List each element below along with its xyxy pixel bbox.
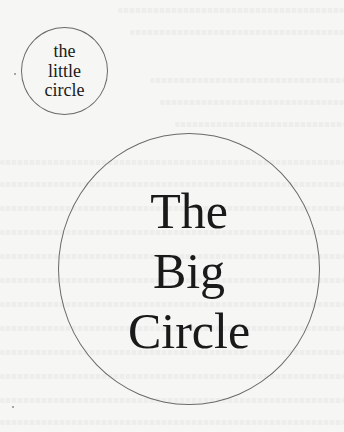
big-circle-line-1: The [150, 181, 228, 241]
stray-mark [14, 73, 16, 75]
little-circle-line-2: little [48, 62, 81, 82]
big-circle: The Big Circle [58, 133, 320, 405]
big-circle-line-2: Big [153, 241, 225, 301]
little-circle: the little circle [21, 27, 108, 115]
little-circle-line-1: the [54, 42, 76, 62]
little-circle-line-3: circle [45, 81, 85, 101]
big-circle-line-3: Circle [128, 301, 250, 361]
stray-mark [12, 406, 14, 408]
